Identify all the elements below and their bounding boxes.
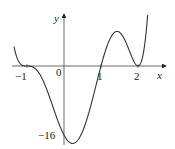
function-curve (14, 15, 148, 143)
origin-label: 0 (56, 66, 62, 78)
min-value-label: −16 (38, 129, 56, 141)
x-axis-label: x (156, 69, 162, 81)
y-axis-label: y (53, 12, 59, 24)
tick-label-neg1: −1 (15, 70, 27, 82)
tick-label-2: 2 (134, 70, 140, 82)
tick-label-1: 1 (97, 70, 103, 82)
function-graph: y x 0 −1 1 2 −16 (0, 0, 175, 149)
